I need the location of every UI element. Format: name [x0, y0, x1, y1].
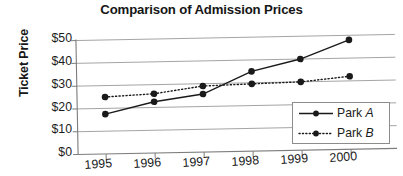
x-tick-label: 1999 [280, 151, 308, 167]
data-point-marker [200, 91, 207, 98]
data-point-marker [248, 81, 255, 88]
legend-label-suffix: A [365, 106, 373, 120]
data-point-marker [102, 111, 109, 118]
data-point-marker [151, 90, 158, 97]
legend-label-suffix: B [365, 126, 373, 140]
x-tick-label: 1996 [133, 155, 161, 171]
legend-label-prefix: Park [337, 106, 365, 120]
chart-legend: Park A Park B [292, 102, 390, 144]
data-point-marker [346, 73, 353, 80]
x-tick-label: 1997 [182, 154, 210, 170]
legend-item-park-b: Park B [293, 123, 391, 144]
series-line-park-b [105, 76, 350, 97]
legend-label-park-b: Park B [337, 126, 374, 140]
data-point-marker [346, 37, 353, 44]
data-point-marker [102, 94, 109, 101]
x-tick-label: 1995 [84, 156, 112, 172]
data-point-marker [248, 68, 255, 75]
legend-label-park-a: Park A [337, 106, 374, 120]
x-tick-label: 2000 [329, 149, 357, 165]
data-point-marker [151, 98, 158, 105]
legend-swatch-dotted-line [298, 123, 334, 144]
legend-label-prefix: Park [337, 126, 365, 140]
y-axis-line [76, 40, 78, 155]
legend-item-park-a: Park A [293, 103, 391, 124]
x-tick-label: 1998 [231, 153, 259, 169]
data-point-marker [297, 78, 304, 85]
data-point-marker [297, 56, 304, 63]
chart-figure: Comparison of Admission Prices Ticket Pr… [0, 0, 403, 176]
legend-swatch-solid-line [298, 103, 334, 124]
